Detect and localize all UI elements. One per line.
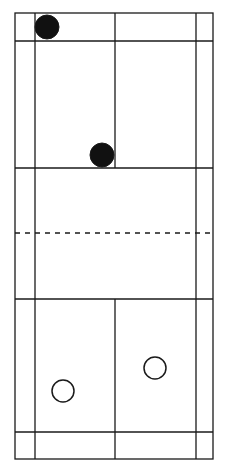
players	[35, 15, 166, 402]
court-lines	[15, 13, 213, 459]
filled-player-marker-1	[35, 15, 59, 39]
filled-player-marker-2	[90, 143, 114, 167]
badminton-court-diagram	[0, 0, 225, 472]
open-player-marker-3	[52, 380, 74, 402]
court-boundary	[15, 13, 213, 459]
open-player-marker-4	[144, 357, 166, 379]
